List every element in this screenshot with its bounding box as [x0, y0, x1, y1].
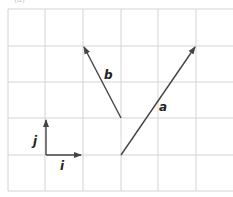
grid [8, 9, 233, 191]
label-j: j [31, 134, 38, 148]
vector-diagram: i j a b [0, 0, 233, 197]
label-a: a [159, 100, 167, 114]
label-i: i [60, 159, 65, 173]
label-b: b [104, 68, 113, 82]
